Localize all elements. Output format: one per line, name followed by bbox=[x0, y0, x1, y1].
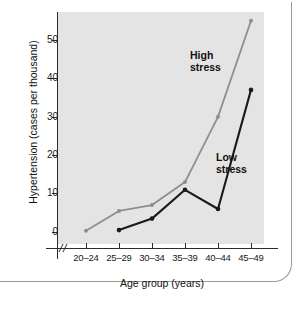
high-stress-line bbox=[86, 21, 251, 231]
y-axis-title: Hypertension (cases per thousand) bbox=[27, 27, 39, 217]
high-stress-markers bbox=[84, 19, 253, 233]
figure-page: 0 10 20 30 40 50 20–24 25–29 30–34 35–39… bbox=[0, 0, 308, 313]
high-stress-label-line2: stress bbox=[190, 62, 221, 74]
low-stress-label-line1: Low bbox=[216, 152, 247, 164]
low-stress-label-line2: stress bbox=[216, 164, 247, 176]
high-stress-label: High stress bbox=[190, 50, 221, 73]
low-stress-label: Low stress bbox=[216, 152, 247, 175]
data-series-layer bbox=[0, 0, 308, 313]
high-stress-label-line1: High bbox=[190, 50, 221, 62]
x-axis-title: Age group (years) bbox=[46, 277, 278, 289]
